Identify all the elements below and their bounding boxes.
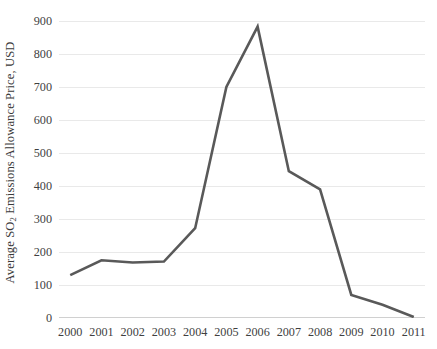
y-tick-label: 300	[8, 213, 52, 225]
y-tick-label: 200	[8, 246, 52, 258]
x-tick-label: 2011	[391, 326, 437, 338]
y-tick-label: 0	[8, 312, 52, 324]
y-tick-label: 100	[8, 279, 52, 291]
line-chart-figure: Average SO2 Emissions Allowance Price, U…	[0, 0, 437, 349]
plot-svg	[59, 21, 425, 318]
x-axis-tick-labels: 2000200120022003200420052006200720082009…	[0, 326, 437, 346]
y-tick-label: 800	[8, 48, 52, 60]
data-series-line	[70, 27, 414, 317]
plot-area	[59, 21, 425, 318]
y-tick-label: 500	[8, 147, 52, 159]
y-tick-label: 900	[8, 15, 52, 27]
gridlines	[59, 22, 425, 286]
y-tick-label: 400	[8, 180, 52, 192]
y-tick-label: 600	[8, 114, 52, 126]
y-axis-tick-labels: 0100200300400500600700800900	[0, 0, 52, 349]
y-tick-label: 700	[8, 81, 52, 93]
